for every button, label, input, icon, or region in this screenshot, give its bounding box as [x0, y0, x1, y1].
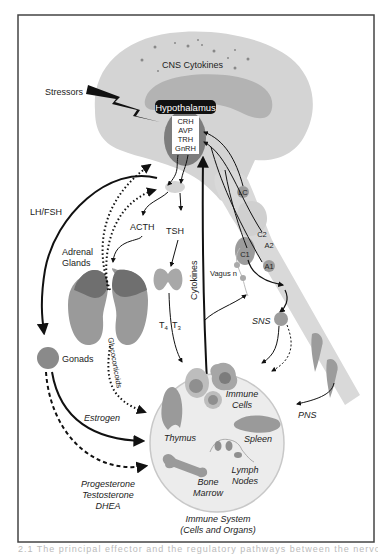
- immune-cells-label-2: Cells: [232, 400, 253, 410]
- immune-system-title: Immune System: [185, 514, 251, 524]
- estrogen-label: Estrogen: [84, 413, 120, 423]
- lh-fsh-label: LH/FSH: [30, 207, 62, 217]
- acth-label: ACTH: [130, 222, 155, 232]
- pituitary: [165, 181, 185, 193]
- neuroendocrine-immune-diagram: CNS Cytokines Hypothalamus CRH AVP TRH G…: [0, 0, 388, 555]
- lymph-label-2: Nodes: [232, 476, 259, 486]
- figure-caption: 2.1 The principal effector and the regul…: [18, 544, 378, 555]
- hormone-avp: AVP: [178, 126, 192, 135]
- spleen-label: Spleen: [244, 434, 272, 444]
- hypothalamus-label: Hypothalamus: [155, 102, 216, 113]
- cytokines-label: Cytokines: [189, 260, 199, 300]
- adrenal-label-line2: Glands: [62, 258, 91, 268]
- gonads: [37, 347, 59, 369]
- lymph-label-1: Lymph: [232, 465, 259, 475]
- immune-cells-label-1: Immune: [226, 389, 259, 399]
- dhea-label: DHEA: [95, 501, 120, 511]
- sns-ganglion: [274, 312, 288, 326]
- sns-label: SNS: [252, 316, 271, 326]
- bone-label-2: Marrow: [193, 488, 224, 498]
- hormone-trh: TRH: [178, 135, 193, 144]
- immune-system-subtitle: (Cells and Organs): [180, 525, 256, 535]
- testosterone-label: Testosterone: [82, 490, 134, 500]
- svg-text:LC: LC: [238, 188, 248, 197]
- pns-label: PNS: [298, 410, 317, 420]
- thymus-label: Thymus: [164, 433, 197, 443]
- cns-cytokines-label: CNS Cytokines: [162, 60, 224, 70]
- hormone-crh: CRH: [177, 117, 193, 126]
- adrenal-label-line1: Adrenal: [62, 247, 93, 257]
- svg-text:C1: C1: [240, 250, 250, 259]
- progesterone-label: Progesterone: [81, 479, 135, 489]
- gonads-label: Gonads: [62, 354, 94, 364]
- stressors-label: Stressors: [45, 87, 84, 97]
- bone-label-1: Bone: [197, 477, 218, 487]
- svg-text:A1: A1: [264, 262, 273, 271]
- vagus-label: Vagus n: [210, 269, 237, 278]
- hormone-gnrh: GnRH: [175, 144, 196, 153]
- svg-text:A2: A2: [264, 241, 273, 250]
- tsh-label: TSH: [166, 226, 184, 236]
